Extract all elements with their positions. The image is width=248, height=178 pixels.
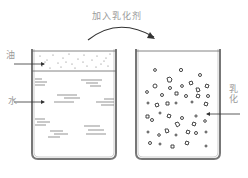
oil-layer <box>32 51 116 71</box>
water-pointer-arrow-icon <box>14 100 45 104</box>
water-layer <box>35 79 114 137</box>
emulsion-droplets <box>146 68 210 148</box>
water-label: 水 <box>8 96 17 106</box>
oil-pointer-arrow-icon <box>14 62 45 66</box>
add-emulsifier-label: 加入乳化剂 <box>92 11 142 21</box>
oil-label: 油 <box>6 50 15 60</box>
curved-arrow-icon <box>88 27 155 40</box>
left-beaker <box>32 49 116 159</box>
right-beaker <box>136 49 220 159</box>
emulsion-label: 乳化 <box>228 84 238 104</box>
emulsion-pointer-arrow-icon <box>206 112 240 116</box>
emulsification-diagram <box>0 0 248 178</box>
